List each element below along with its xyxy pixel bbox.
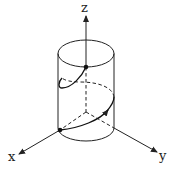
helix-cylinder-diagram: z x y	[0, 0, 174, 175]
y-axis	[114, 128, 157, 152]
z-axis-label: z	[81, 0, 88, 15]
x-axis-label: x	[8, 149, 16, 164]
x-axis	[19, 130, 60, 154]
helix-start-point	[58, 128, 63, 133]
hidden-axis-segments	[60, 112, 114, 130]
cylinder-bottom-front-arc	[58, 128, 114, 141]
helix-top-point	[84, 65, 89, 70]
y-axis-label: y	[158, 148, 167, 163]
